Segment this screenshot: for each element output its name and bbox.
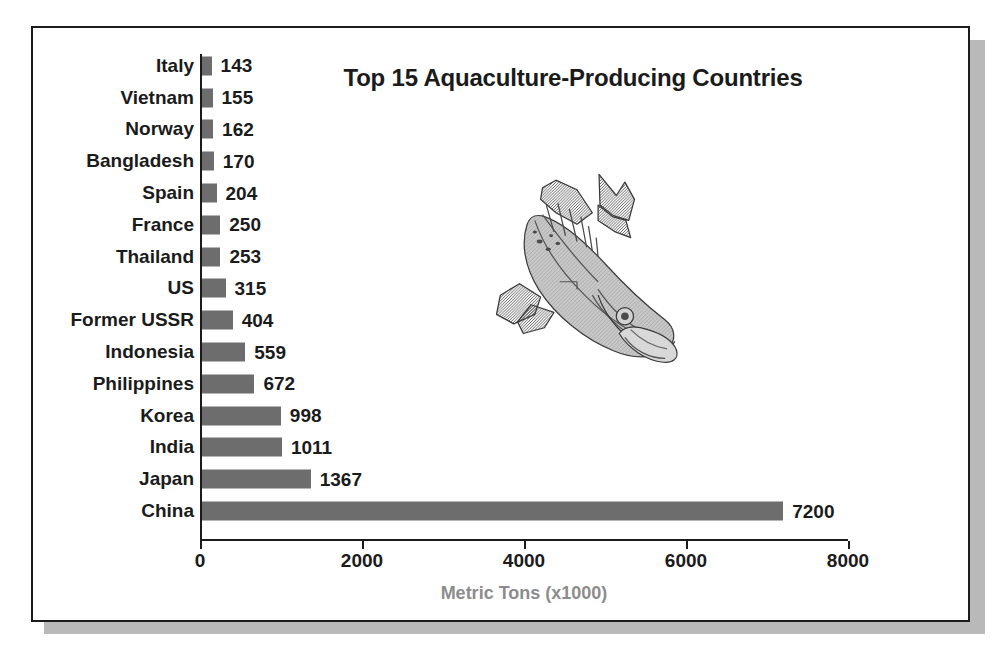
bar: [200, 152, 214, 171]
x-axis-tick-label: 6000: [665, 550, 707, 572]
bar-row: Korea 998: [33, 400, 968, 432]
category-label: Philippines: [93, 373, 194, 395]
bar-row: Former USSR 404: [33, 304, 968, 336]
bar-value-label: 1011: [291, 436, 332, 458]
chart-figure-frame: Top 15 Aquaculture-Producing Countries: [31, 26, 970, 622]
bar-value-label: 204: [226, 182, 258, 204]
category-label: China: [141, 500, 194, 522]
bar-value-label: 250: [229, 214, 261, 236]
bar-group: 1011: [200, 438, 332, 457]
bar-row: Indonesia 559: [33, 336, 968, 368]
bar-value-label: 998: [290, 405, 322, 427]
bar-row: Philippines 672: [33, 368, 968, 400]
x-axis-tick: [686, 541, 688, 549]
bar: [200, 247, 220, 266]
bar-group: 155: [200, 88, 253, 107]
x-axis-tick: [362, 541, 364, 549]
bar-value-label: 7200: [792, 500, 834, 522]
bar-value-label: 162: [222, 118, 254, 140]
bar-group: 315: [200, 279, 266, 298]
category-label: Korea: [140, 405, 194, 427]
chart-plot-area: Top 15 Aquaculture-Producing Countries: [33, 28, 968, 620]
category-label: France: [132, 214, 194, 236]
category-label: Indonesia: [105, 341, 194, 363]
x-axis-tick: [848, 541, 850, 549]
x-axis-tick-label: 4000: [503, 550, 545, 572]
bar-value-label: 315: [235, 277, 267, 299]
bar-row: Bangladesh 170: [33, 145, 968, 177]
bar-group: 162: [200, 120, 254, 139]
bar-row: Vietnam 155: [33, 82, 968, 114]
bar-group: 672: [200, 374, 295, 393]
x-axis-tick-label: 2000: [341, 550, 383, 572]
bar-group: 404: [200, 311, 273, 330]
bar-row: Japan 1367: [33, 463, 968, 495]
bar-row: Spain 204: [33, 177, 968, 209]
category-label: Thailand: [116, 246, 194, 268]
category-label: US: [168, 277, 194, 299]
bar-group: 7200: [200, 502, 834, 521]
bar-value-label: 170: [223, 150, 255, 172]
bar-row: Thailand 253: [33, 241, 968, 273]
x-axis-title: Metric Tons (x1000): [200, 583, 848, 604]
bar: [200, 215, 220, 234]
bar-row: US 315: [33, 273, 968, 305]
category-label: Bangladesh: [86, 150, 194, 172]
bar-row: China 7200: [33, 495, 968, 527]
x-axis-tick-label: 0: [195, 550, 206, 572]
category-label: Vietnam: [120, 87, 194, 109]
bar-row: Italy 143: [33, 50, 968, 82]
x-axis-tick-label: 8000: [827, 550, 869, 572]
bar: [200, 343, 245, 362]
bar-group: 253: [200, 247, 261, 266]
category-label: Italy: [156, 55, 194, 77]
chart-bar-rows: Italy 143 Vietnam 155 Norway 162: [33, 50, 968, 527]
x-axis-tick: [200, 541, 202, 549]
bar-value-label: 559: [254, 341, 286, 363]
y-axis-line: [200, 54, 202, 540]
bar-group: 204: [200, 184, 257, 203]
bar: [200, 438, 282, 457]
bar-group: 170: [200, 152, 254, 171]
bar-group: 559: [200, 343, 286, 362]
bar-group: 1367: [200, 470, 362, 489]
category-label: India: [150, 436, 194, 458]
bar: [200, 406, 281, 425]
category-label: Japan: [139, 468, 194, 490]
bar-row: India 1011: [33, 432, 968, 464]
bar-value-label: 404: [242, 309, 274, 331]
bar: [200, 184, 217, 203]
bar-group: 250: [200, 215, 261, 234]
bar-value-label: 1367: [320, 468, 362, 490]
bar-group: 998: [200, 406, 322, 425]
bar: [200, 311, 233, 330]
category-label: Former USSR: [70, 309, 194, 331]
bar-value-label: 143: [221, 55, 253, 77]
category-label: Norway: [125, 118, 194, 140]
bar-value-label: 253: [229, 246, 261, 268]
bar-group: 143: [200, 56, 252, 75]
bar: [200, 470, 311, 489]
bar: [200, 502, 783, 521]
bar-row: France 250: [33, 209, 968, 241]
bar-value-label: 672: [263, 373, 295, 395]
x-axis-tick: [524, 541, 526, 549]
bar-value-label: 155: [222, 87, 254, 109]
bar: [200, 279, 226, 298]
bar-row: Norway 162: [33, 114, 968, 146]
category-label: Spain: [142, 182, 194, 204]
bar: [200, 374, 254, 393]
